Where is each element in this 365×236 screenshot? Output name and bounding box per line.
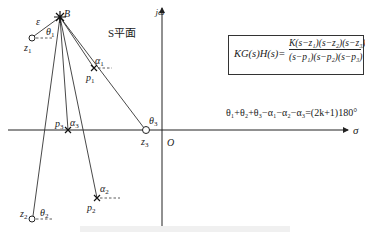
transfer-function-denominator: (s−p₁)(s−p₂)(s−p₃) bbox=[289, 50, 361, 62]
p1-label: p1 bbox=[86, 73, 95, 85]
z2-label: z2 bbox=[20, 209, 27, 221]
p2-label: p2 bbox=[87, 203, 96, 215]
transfer-function-lhs: KG(s)H(s)= bbox=[234, 48, 285, 59]
zero-z1-marker bbox=[29, 35, 35, 41]
s-plane-label: S平面 bbox=[108, 28, 136, 39]
z3-label: z3 bbox=[141, 137, 148, 149]
alpha1-label: α1 bbox=[95, 56, 104, 68]
vectors-from-b bbox=[33, 17, 144, 216]
alpha3-label: α3 bbox=[70, 118, 79, 130]
epsilon-label: ε bbox=[36, 17, 40, 27]
theta1-label: θ1 bbox=[46, 27, 54, 39]
point-b-label: B bbox=[64, 9, 70, 19]
alpha2-label: α2 bbox=[100, 184, 109, 196]
theta2-label: θ2 bbox=[40, 208, 48, 220]
transfer-function-box: KG(s)H(s)= K(s−z₁)(s−z₂)(s−z₃) (s−p₁)(s−… bbox=[228, 35, 364, 75]
origin-label: O bbox=[167, 138, 174, 148]
real-axis-label: σ bbox=[353, 125, 358, 136]
p3-label: p3 bbox=[55, 119, 64, 131]
theta3-label: θ3 bbox=[149, 116, 157, 128]
z1-label: z1 bbox=[24, 43, 31, 55]
angle-condition: θ₁+θ₂+θ₃−α₁−α₂−α₃=(2k+1)180° bbox=[226, 107, 357, 118]
transfer-function-numerator: K(s−z₁)(s−z₂)(s−z₃) bbox=[289, 38, 361, 50]
imag-axis-label: jω bbox=[156, 8, 165, 17]
faint-caption-strip bbox=[80, 226, 290, 232]
pole-markers bbox=[65, 65, 100, 201]
zero-z2-marker bbox=[29, 216, 35, 222]
transfer-function-fraction: K(s−z₁)(s−z₂)(s−z₃) (s−p₁)(s−p₂)(s−p₃) bbox=[289, 38, 361, 62]
